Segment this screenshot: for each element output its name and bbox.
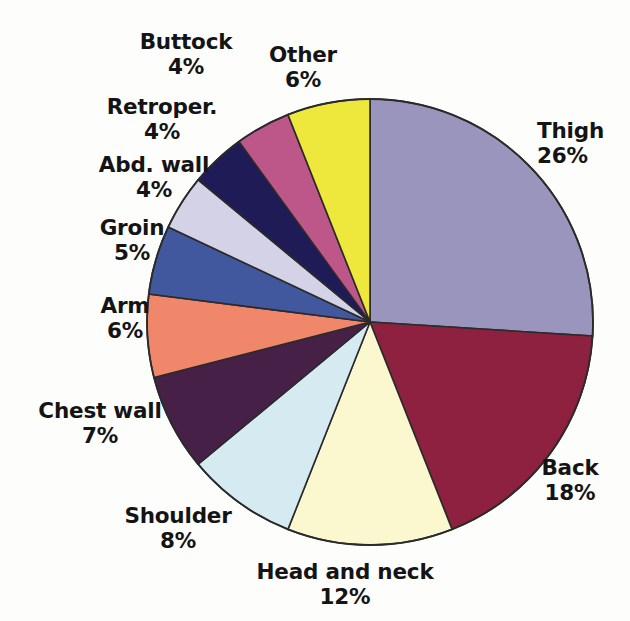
pie-slice-group	[147, 99, 593, 545]
slice-label-thigh: Thigh 26%	[537, 118, 604, 169]
slice-label-chest-wall: Chest wall 7%	[38, 398, 161, 449]
slice-label-head-and-neck: Head and neck 12%	[257, 559, 434, 610]
slice-label-shoulder-value: 8%	[124, 528, 231, 553]
slice-label-other-value: 6%	[269, 67, 337, 92]
slice-label-buttock: Buttock 4%	[140, 29, 233, 80]
slice-label-buttock-value: 4%	[140, 54, 233, 79]
slice-label-abd-wall-value: 4%	[99, 177, 209, 202]
slice-label-arm-value: 6%	[100, 318, 149, 343]
slice-label-retroper-value: 4%	[107, 119, 218, 144]
slice-label-arm-name: Arm	[100, 293, 149, 318]
slice-label-abd-wall-name: Abd. wall	[99, 152, 209, 177]
slice-label-groin-name: Groin	[100, 215, 165, 240]
slice-label-shoulder-name: Shoulder	[124, 503, 231, 528]
slice-label-thigh-name: Thigh	[537, 118, 604, 143]
slice-label-other: Other 6%	[269, 42, 337, 93]
slice-label-retroper: Retroper. 4%	[107, 94, 218, 145]
slice-label-other-name: Other	[269, 42, 337, 67]
slice-label-shoulder: Shoulder 8%	[124, 503, 231, 554]
slice-label-thigh-value: 26%	[537, 143, 604, 168]
slice-label-arm: Arm 6%	[100, 293, 149, 344]
slice-label-buttock-name: Buttock	[140, 29, 233, 54]
slice-label-groin-value: 5%	[100, 240, 165, 265]
slice-label-chest-wall-value: 7%	[38, 423, 161, 448]
pie-chart-graphic	[0, 0, 630, 621]
slice-label-abd-wall: Abd. wall 4%	[99, 152, 209, 203]
pie-chart-figure: Thigh 26% Back 18% Head and neck 12% Sho…	[0, 0, 630, 621]
slice-label-head-and-neck-value: 12%	[257, 584, 434, 609]
slice-label-chest-wall-name: Chest wall	[38, 398, 161, 423]
slice-label-back: Back 18%	[541, 455, 598, 506]
slice-label-groin: Groin 5%	[100, 215, 165, 266]
slice-label-back-value: 18%	[541, 480, 598, 505]
slice-label-retroper-name: Retroper.	[107, 94, 218, 119]
slice-label-head-and-neck-name: Head and neck	[257, 559, 434, 584]
slice-label-back-name: Back	[541, 455, 598, 480]
